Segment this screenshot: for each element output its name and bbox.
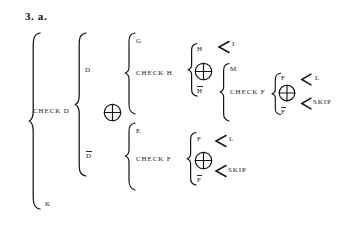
angle-bracket-to-skip-upper: [300, 97, 313, 110]
angle-bracket-to-skip-lower: [214, 164, 228, 178]
label-g: G: [136, 38, 142, 45]
label-d-top: D: [85, 67, 91, 74]
label-l-upper: L: [315, 75, 320, 82]
oplus-icon-level4-h: [194, 62, 213, 81]
oplus-icon-level4-f-lower: [194, 151, 213, 170]
figure-label: 3. a.: [25, 10, 47, 22]
label-i: I: [232, 41, 235, 48]
brace-level1: [28, 31, 44, 211]
label-f-bar-lower: F: [197, 175, 202, 184]
label-check-f-lower: CHECK F: [136, 156, 172, 163]
label-e: E: [136, 128, 141, 135]
angle-bracket-to-i: [217, 40, 231, 54]
label-h-top: H: [197, 46, 203, 53]
label-f-top-upper: F: [281, 75, 286, 82]
oplus-icon-level6-upper: [278, 84, 296, 102]
label-d-bar-bottom: D: [86, 151, 92, 160]
label-skip-lower: SKIP: [228, 167, 247, 174]
angle-bracket-to-l-upper: [300, 73, 313, 86]
angle-bracket-to-l-lower: [214, 134, 228, 148]
label-skip-upper: SKIP: [313, 99, 332, 106]
page-canvas: 3. a. CHECK D K D D G CHECK H: [0, 0, 349, 234]
label-k: K: [45, 201, 51, 208]
label-f-bar-upper: F: [281, 107, 286, 116]
label-check-f-upper: CHECK F: [230, 89, 266, 96]
oplus-icon-level2: [103, 103, 122, 122]
label-l-lower: L: [229, 136, 234, 143]
label-f-top-lower: F: [197, 136, 202, 143]
label-h-bar-bottom: H: [197, 86, 203, 95]
label-check-h: CHECK H: [136, 70, 173, 77]
label-m: M: [230, 66, 237, 73]
label-check-d: CHECK D: [33, 108, 70, 115]
